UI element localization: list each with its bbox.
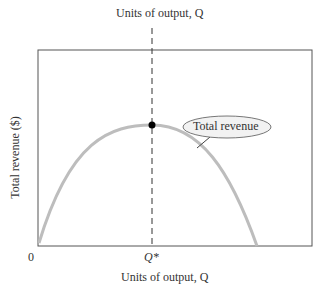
top-axis-label: Units of output, Q (116, 6, 203, 21)
chart-canvas (0, 0, 326, 292)
qstar-tick: Q* (144, 250, 159, 265)
y-axis-label: Total revenue ($) (8, 103, 23, 213)
total-revenue-curve (39, 125, 257, 246)
callout-label: Total revenue (193, 119, 258, 134)
peak-marker (149, 122, 156, 129)
bottom-axis-label: Units of output, Q (121, 270, 208, 285)
origin-tick: 0 (28, 250, 34, 265)
plot-frame (38, 50, 312, 246)
